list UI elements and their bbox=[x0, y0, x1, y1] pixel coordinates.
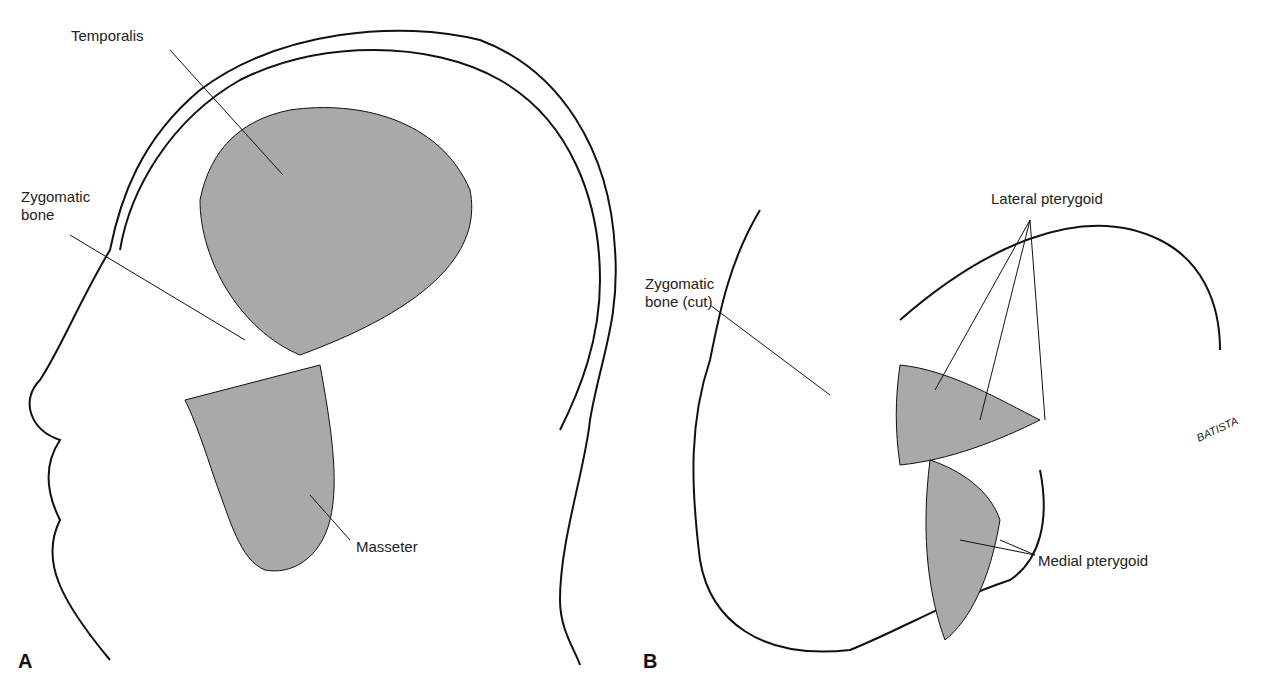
illustration bbox=[0, 0, 1266, 686]
label-temporalis: Temporalis bbox=[71, 27, 144, 45]
masseter-muscle bbox=[185, 365, 334, 571]
temporalis-muscle bbox=[200, 108, 472, 355]
panel-label-a: A bbox=[18, 650, 32, 673]
label-zygomatic-bone-cut: Zygomatic bone (cut) bbox=[645, 275, 714, 311]
lateral-pterygoid-muscle bbox=[896, 365, 1040, 465]
label-masseter: Masseter bbox=[356, 538, 418, 556]
label-medial-pterygoid: Medial pterygoid bbox=[1038, 552, 1148, 570]
label-zygomatic-bone: Zygomatic bone bbox=[21, 188, 90, 224]
cranium-outline-b bbox=[900, 226, 1220, 350]
label-lateral-pterygoid: Lateral pterygoid bbox=[991, 190, 1103, 208]
panel-label-b: B bbox=[643, 650, 657, 673]
medial-pterygoid-muscle bbox=[926, 460, 1000, 640]
